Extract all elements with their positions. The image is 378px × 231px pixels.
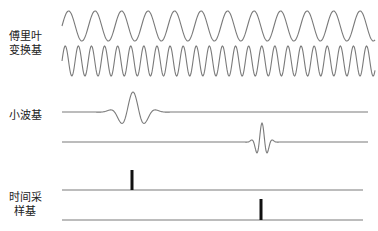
fourier-high-frequency-wave [62,46,375,76]
wavelet-narrow-scale [62,123,368,153]
wavelet-wide-scale [62,92,368,123]
basis-comparison-diagram [0,0,378,231]
fourier-low-frequency-wave [62,11,375,41]
